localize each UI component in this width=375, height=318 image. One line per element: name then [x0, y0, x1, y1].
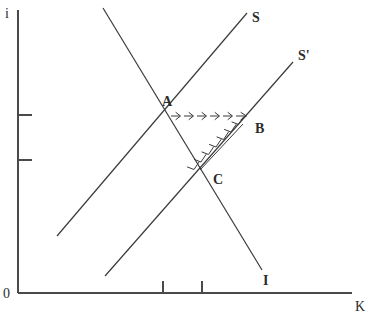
saving-curve-S-prime — [105, 62, 293, 276]
point-label-B: B — [255, 121, 264, 136]
saving-curve-S — [57, 13, 247, 236]
investment-saving-diagram: i K 0 S S' I A B C — [0, 0, 375, 318]
y-axis-label: i — [5, 6, 9, 21]
x-axis-label: K — [355, 299, 365, 314]
point-label-C: C — [213, 172, 223, 187]
investment-curve-I — [103, 8, 262, 270]
horizontal-arrows-a-to-b — [171, 113, 247, 120]
point-label-A: A — [162, 94, 173, 109]
curve-label-S-prime: S' — [298, 48, 310, 63]
origin-label: 0 — [3, 286, 10, 301]
curve-label-I: I — [263, 273, 268, 288]
curve-label-S: S — [252, 10, 260, 25]
